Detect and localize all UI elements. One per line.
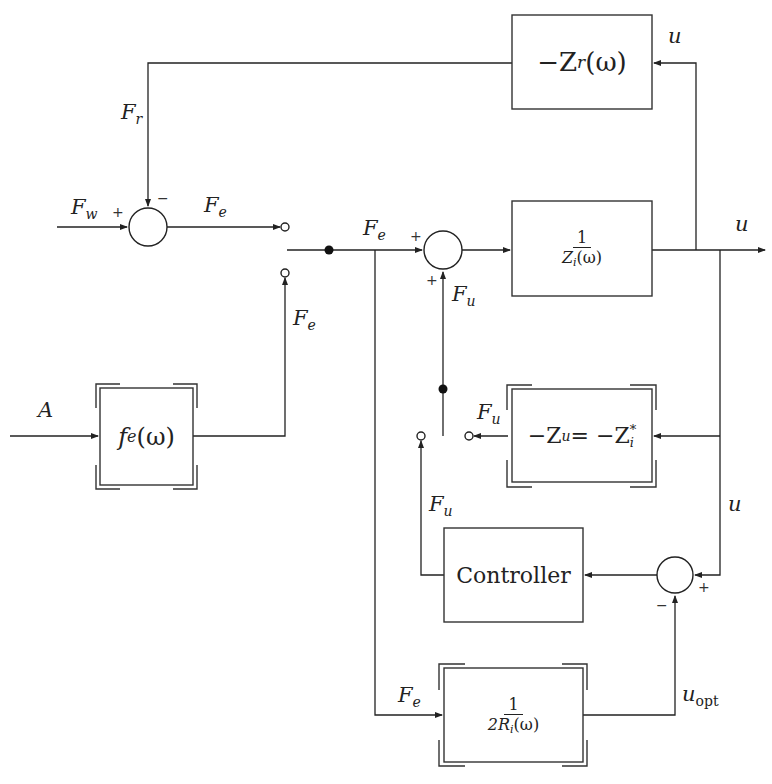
sign-minus-fr: − (157, 190, 169, 206)
zi-den: Zi(ω) (562, 248, 602, 269)
label-u-right: u (728, 492, 742, 516)
block-fe: fe(ω) (100, 388, 193, 485)
sign-plus-fe: + (410, 228, 422, 244)
label-fe-4: Fe (398, 683, 421, 710)
sign-plus-u: + (698, 579, 710, 595)
label-fu-1: Fu (452, 282, 476, 309)
label-a: A (38, 398, 53, 422)
zi-fraction: 1 Zi(ω) (562, 228, 602, 269)
label-fe-2: Fe (363, 216, 386, 243)
zr-text: −Z (537, 47, 577, 77)
label-fw: Fw (71, 195, 98, 222)
zi-num: 1 (573, 228, 591, 248)
label-u-out: u (735, 212, 749, 236)
controller-label: Controller (456, 563, 570, 588)
block-ri: 1 2Ri(ω) (444, 668, 583, 762)
sign-plus-fu: + (426, 272, 438, 288)
label-u-top: u (668, 24, 682, 48)
label-fu-3: Fu (429, 492, 453, 519)
ri-fraction: 1 2Ri(ω) (488, 695, 539, 736)
block-controller: Controller (444, 528, 583, 622)
label-fr: Fr (121, 100, 142, 127)
zr-post: (ω) (585, 47, 627, 77)
block-zu: −Zu = −Z*i (512, 389, 652, 482)
block-zi: 1 Zi(ω) (512, 201, 652, 296)
label-fe-1: Fe (204, 193, 227, 220)
sign-plus-fw: + (112, 204, 124, 220)
label-fu-2: Fu (477, 400, 501, 427)
sign-minus-uopt: − (656, 597, 668, 613)
label-uopt: uopt (682, 682, 719, 709)
block-zr: −Zr(ω) (512, 15, 652, 109)
label-fe-3: Fe (293, 306, 316, 333)
zr-sub: r (577, 52, 585, 72)
